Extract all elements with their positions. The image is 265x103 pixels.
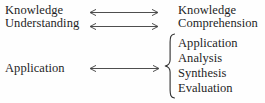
left-item-understanding: Understanding xyxy=(5,17,79,30)
double-arrow-icon-application xyxy=(87,64,161,73)
right-item-comprehension: Comprehension xyxy=(178,17,258,30)
right-item-synthesis: Synthesis xyxy=(178,67,226,80)
double-arrow-icon-knowledge xyxy=(87,8,161,17)
right-item-analysis: Analysis xyxy=(178,52,222,65)
right-item-application: Application xyxy=(178,37,238,50)
double-arrow-icon-understanding xyxy=(87,22,161,31)
taxonomy-mapping-diagram: Knowledge Understanding Application Know… xyxy=(0,0,265,103)
left-curly-brace-icon xyxy=(163,33,177,99)
left-item-application: Application xyxy=(5,62,65,75)
right-item-evaluation: Evaluation xyxy=(178,82,233,95)
